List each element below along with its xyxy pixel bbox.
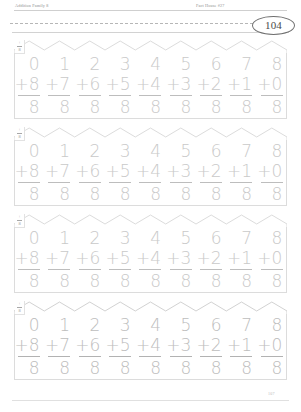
sum-answer[interactable]: 8 bbox=[200, 185, 223, 204]
second-addend: +0 bbox=[260, 248, 283, 268]
sum-answer[interactable]: 8 bbox=[18, 185, 41, 204]
sum-answer[interactable]: 8 bbox=[139, 359, 162, 378]
addition-problem[interactable]: 1+78 bbox=[44, 314, 74, 380]
sum-answer[interactable]: 8 bbox=[200, 98, 223, 117]
sum-answer[interactable]: 8 bbox=[78, 185, 101, 204]
second-addend: +6 bbox=[78, 161, 101, 181]
addition-problem[interactable]: 6+28 bbox=[196, 140, 226, 206]
second-addend: +1 bbox=[230, 74, 253, 94]
addition-problem[interactable]: 4+48 bbox=[135, 227, 165, 293]
second-addend: +7 bbox=[48, 248, 71, 268]
first-addend: 5 bbox=[169, 229, 192, 248]
second-addend: +7 bbox=[48, 335, 71, 355]
second-addend: +8 bbox=[18, 335, 41, 355]
sum-rule bbox=[170, 182, 192, 183]
sum-answer[interactable]: 8 bbox=[230, 185, 253, 204]
problem-list: 0+881+782+683+584+485+386+287+188+08 bbox=[14, 314, 287, 380]
addition-problem[interactable]: 3+58 bbox=[105, 227, 135, 293]
addition-problem[interactable]: 4+48 bbox=[135, 140, 165, 206]
sum-answer[interactable]: 8 bbox=[230, 98, 253, 117]
sum-answer[interactable]: 8 bbox=[260, 185, 283, 204]
addition-problem[interactable]: 4+48 bbox=[135, 53, 165, 119]
sum-rule bbox=[170, 356, 192, 357]
sum-answer[interactable]: 8 bbox=[230, 359, 253, 378]
addition-problem[interactable]: 7+18 bbox=[226, 227, 256, 293]
sum-answer[interactable]: 8 bbox=[109, 185, 132, 204]
addition-problem[interactable]: 7+18 bbox=[226, 314, 256, 380]
sum-rule bbox=[139, 182, 161, 183]
sum-answer[interactable]: 8 bbox=[48, 272, 71, 291]
sum-answer[interactable]: 8 bbox=[18, 98, 41, 117]
sum-answer[interactable]: 8 bbox=[200, 272, 223, 291]
sum-answer[interactable]: 8 bbox=[169, 185, 192, 204]
sum-rule bbox=[230, 95, 252, 96]
addition-problem[interactable]: 2+68 bbox=[75, 227, 105, 293]
sum-answer[interactable]: 8 bbox=[48, 185, 71, 204]
header-divider bbox=[14, 10, 287, 11]
sum-answer[interactable]: 8 bbox=[139, 98, 162, 117]
addition-problem[interactable]: 1+78 bbox=[44, 227, 74, 293]
addition-problem[interactable]: 7+18 bbox=[226, 140, 256, 206]
sum-answer[interactable]: 8 bbox=[18, 359, 41, 378]
addition-problem[interactable]: 3+58 bbox=[105, 140, 135, 206]
sum-answer[interactable]: 8 bbox=[18, 272, 41, 291]
sum-answer[interactable]: 8 bbox=[200, 359, 223, 378]
addition-problem[interactable]: 0+88 bbox=[14, 314, 44, 380]
addition-problem[interactable]: 5+38 bbox=[166, 140, 196, 206]
addition-problem[interactable]: 0+88 bbox=[14, 140, 44, 206]
sum-answer[interactable]: 8 bbox=[139, 185, 162, 204]
sum-answer[interactable]: 8 bbox=[48, 359, 71, 378]
addition-problem[interactable]: 2+68 bbox=[75, 140, 105, 206]
addition-problem[interactable]: 3+58 bbox=[105, 314, 135, 380]
addition-problem[interactable]: 8+08 bbox=[257, 314, 287, 380]
addition-problem[interactable]: 6+28 bbox=[196, 227, 226, 293]
second-addend: +1 bbox=[230, 335, 253, 355]
second-addend: +5 bbox=[109, 74, 132, 94]
addition-problem[interactable]: 5+38 bbox=[166, 53, 196, 119]
addition-problem[interactable]: 0+88 bbox=[14, 227, 44, 293]
sum-rule bbox=[261, 182, 283, 183]
sum-rule bbox=[139, 269, 161, 270]
addition-problem[interactable]: 6+28 bbox=[196, 314, 226, 380]
sum-answer[interactable]: 8 bbox=[260, 359, 283, 378]
sum-answer[interactable]: 8 bbox=[78, 98, 101, 117]
addition-problem[interactable]: 8+08 bbox=[257, 227, 287, 293]
sum-answer[interactable]: 8 bbox=[109, 272, 132, 291]
sum-answer[interactable]: 8 bbox=[109, 98, 132, 117]
sum-answer[interactable]: 8 bbox=[169, 272, 192, 291]
addition-problem[interactable]: 2+68 bbox=[75, 314, 105, 380]
page-number-badge: 104 bbox=[252, 16, 295, 35]
sum-answer[interactable]: 8 bbox=[260, 272, 283, 291]
sum-answer[interactable]: 8 bbox=[169, 98, 192, 117]
addition-problem[interactable]: 0+88 bbox=[14, 53, 44, 119]
addition-problem[interactable]: 3+58 bbox=[105, 53, 135, 119]
first-addend: 1 bbox=[48, 142, 71, 161]
first-addend: 6 bbox=[200, 316, 223, 335]
addition-problem[interactable]: 2+68 bbox=[75, 53, 105, 119]
fact-house-row-2: + 8 0+881+782+683+584+485+386+287+188+08 bbox=[14, 127, 287, 207]
sum-answer[interactable]: 8 bbox=[48, 98, 71, 117]
addition-problem[interactable]: 6+28 bbox=[196, 53, 226, 119]
addition-problem[interactable]: 1+78 bbox=[44, 53, 74, 119]
sum-answer[interactable]: 8 bbox=[139, 272, 162, 291]
sum-answer[interactable]: 8 bbox=[169, 359, 192, 378]
addition-problem[interactable]: 4+48 bbox=[135, 314, 165, 380]
addition-problem[interactable]: 8+08 bbox=[257, 140, 287, 206]
second-addend: +5 bbox=[109, 248, 132, 268]
second-addend: +2 bbox=[200, 74, 223, 94]
sum-answer[interactable]: 8 bbox=[78, 359, 101, 378]
addition-problem[interactable]: 7+18 bbox=[226, 53, 256, 119]
sum-answer[interactable]: 8 bbox=[260, 98, 283, 117]
sum-answer[interactable]: 8 bbox=[230, 272, 253, 291]
problem-list: 0+881+782+683+584+485+386+287+188+08 bbox=[14, 53, 287, 119]
page-header: Addition Family 8 Fact House #27 bbox=[0, 0, 301, 16]
sum-answer[interactable]: 8 bbox=[109, 359, 132, 378]
sum-answer[interactable]: 8 bbox=[78, 272, 101, 291]
addition-problem[interactable]: 8+08 bbox=[257, 53, 287, 119]
addition-problem[interactable]: 5+38 bbox=[166, 227, 196, 293]
addition-problem[interactable]: 5+38 bbox=[166, 314, 196, 380]
zigzag-roof-icon bbox=[14, 40, 287, 54]
first-addend: 3 bbox=[109, 316, 132, 335]
addition-problem[interactable]: 1+78 bbox=[44, 140, 74, 206]
first-addend: 2 bbox=[78, 55, 101, 74]
